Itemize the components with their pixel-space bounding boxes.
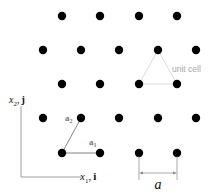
lattice-point — [135, 149, 143, 157]
lattice-point — [77, 114, 85, 122]
lattice-point — [39, 46, 47, 54]
lattice-point — [58, 80, 66, 88]
arrow-left-icon — [139, 172, 143, 175]
lattice-point — [135, 80, 143, 88]
lattice-point — [192, 114, 200, 122]
x2-axis-label: x2,j — [8, 94, 25, 108]
lattice-point — [58, 149, 66, 157]
lattice-point — [96, 12, 104, 20]
a2-label: a2 — [65, 113, 73, 124]
lattice-point — [77, 46, 85, 54]
lattice-point — [154, 46, 162, 54]
lattice-point — [115, 46, 123, 54]
lattice-point — [192, 46, 200, 54]
lattice-points — [39, 12, 200, 157]
arrow-right-icon — [173, 172, 177, 175]
lattice-point — [173, 12, 181, 20]
unit-cell-label: unit cell — [172, 64, 201, 74]
lattice-point — [154, 114, 162, 122]
a1-label: a1 — [89, 137, 97, 148]
lattice-point — [115, 114, 123, 122]
lattice-constant-ruler: a — [139, 156, 177, 192]
lattice-point — [135, 12, 143, 20]
lattice-point — [39, 114, 47, 122]
lattice-constant-label: a — [155, 177, 162, 192]
x1-axis-label: x1,i — [79, 170, 96, 185]
lattice-point — [58, 12, 66, 20]
lattice-point — [96, 149, 104, 157]
lattice-diagram: unit cell x2,j x1,i a1 a2 a — [0, 0, 216, 194]
coordinate-axes: x2,j x1,i — [8, 94, 96, 185]
lattice-point — [96, 80, 104, 88]
lattice-point — [173, 80, 181, 88]
lattice-point — [173, 149, 181, 157]
